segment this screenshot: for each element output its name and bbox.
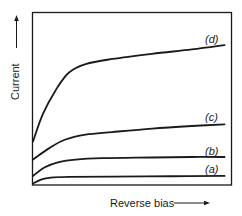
plot-frame <box>33 13 232 186</box>
series-label-d: (d) <box>205 33 218 45</box>
series-curve-c <box>33 124 225 159</box>
y-axis-arrow-icon <box>14 15 19 48</box>
series-layer <box>33 45 225 183</box>
x-axis-label: Reverse bias <box>110 196 174 210</box>
series-curve-a <box>33 176 225 184</box>
y-axis-label-position <box>8 48 24 104</box>
x-axis-arrow-icon <box>174 201 210 206</box>
series-curve-d <box>33 45 225 141</box>
series-curve-b <box>33 157 225 176</box>
series-label-a: (a) <box>205 163 218 175</box>
series-label-b: (b) <box>205 145 218 157</box>
series-label-c: (c) <box>205 111 218 123</box>
